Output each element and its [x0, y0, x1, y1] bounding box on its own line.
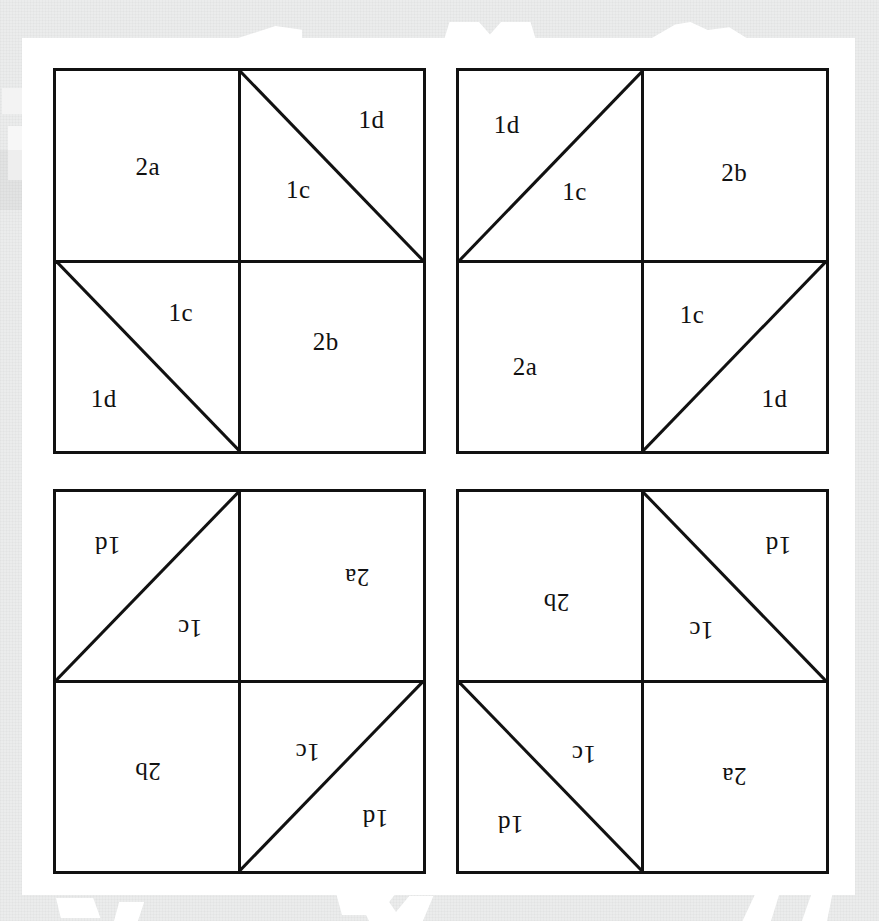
patch-label: 1d	[765, 533, 791, 558]
patch-label: 1d	[362, 805, 388, 830]
quadrant-bottom-right: 2b	[240, 261, 424, 451]
diagonal-line-bl-tr	[56, 492, 240, 682]
patch-label: 2b	[721, 159, 747, 184]
quadrant-top-right: 1d 1c	[459, 682, 643, 872]
quadrant-bottom-left: 1c 1d	[643, 492, 827, 682]
scan-artifact-left-shade	[0, 150, 24, 210]
quilt-block-bottom-right: 2a 1d 1c 1c 1d 2b	[456, 489, 829, 874]
diagonal-line-bl-tr	[643, 261, 827, 451]
quadrant-top-left: 2a	[643, 682, 827, 872]
patch-label: 2a	[722, 764, 747, 789]
patch-label: 1d	[91, 385, 117, 410]
patch-label: 2b	[135, 758, 161, 783]
patch-label: 2b	[543, 589, 569, 614]
patch-label: 1c	[680, 302, 705, 327]
quadrant-bottom-left: 2a	[240, 492, 424, 682]
patch-label: 1d	[359, 106, 385, 131]
patch-label: 1c	[295, 739, 320, 764]
patch-label: 1c	[571, 741, 596, 766]
patch-label: 1d	[94, 533, 120, 558]
patch-label: 2b	[313, 328, 339, 353]
block-horizontal-divider	[459, 680, 826, 683]
diagonal-line-bl-tr	[240, 682, 424, 872]
quilt-block-top-left: 2a 1d 1c 1c 1d 2b	[53, 68, 426, 454]
quadrant-top-right: 1d 1c	[240, 71, 424, 261]
diagonal-line-bl-tr	[459, 71, 643, 261]
quadrant-top-left: 2a	[56, 71, 240, 261]
block-horizontal-divider	[56, 680, 423, 683]
block-horizontal-divider	[459, 260, 826, 263]
quadrant-top-right: 2b	[643, 71, 827, 261]
quadrant-bottom-right: 1c 1d	[56, 492, 240, 682]
quadrant-bottom-left: 2a	[459, 261, 643, 451]
diagonal-line-tl-br	[643, 492, 827, 682]
patch-label: 1d	[762, 385, 788, 410]
quadrant-top-right: 2b	[56, 682, 240, 872]
patch-label: 1c	[689, 618, 714, 643]
patch-label: 2a	[345, 565, 370, 590]
patch-label: 1d	[494, 112, 520, 137]
patch-label: 2a	[135, 154, 160, 179]
patch-label: 1c	[178, 616, 203, 641]
quadrant-top-left: 1d 1c	[240, 682, 424, 872]
quadrant-bottom-right: 1c 1d	[643, 261, 827, 451]
patch-label: 1c	[168, 300, 193, 325]
patch-label: 1c	[286, 176, 311, 201]
quilt-block-bottom-left: 1d 1c 2b 2a 1c 1d	[53, 489, 426, 874]
patch-label: 1d	[497, 811, 523, 836]
quadrant-bottom-right: 2b	[459, 492, 643, 682]
quadrant-top-left: 1d 1c	[459, 71, 643, 261]
diagonal-line-tl-br	[459, 682, 643, 872]
block-horizontal-divider	[56, 260, 423, 263]
quadrant-bottom-left: 1c 1d	[56, 261, 240, 451]
scan-artifact-left-2	[2, 88, 24, 114]
scanned-figure-page: 2a 1d 1c 1c 1d 2b 1d 1c	[0, 0, 879, 921]
patch-label: 1c	[562, 178, 587, 203]
quilt-block-top-right: 1d 1c 2b 2a 1c 1d	[456, 68, 829, 454]
patch-label: 2a	[513, 353, 538, 378]
diagonal-line-tl-br	[56, 261, 240, 451]
diagonal-line-tl-br	[240, 71, 424, 261]
